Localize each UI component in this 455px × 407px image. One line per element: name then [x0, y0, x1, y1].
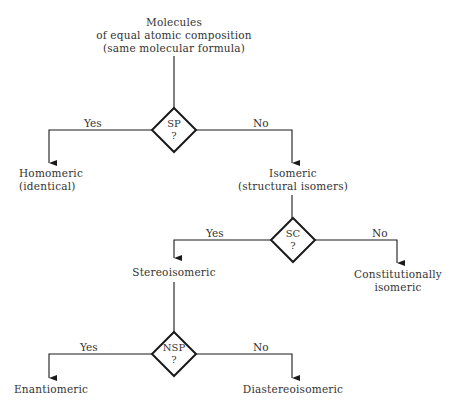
node-constitutionally-line2: isomeric: [347, 281, 449, 294]
edge-sp-yes: [49, 130, 152, 163]
edge-label-sp-no: No: [253, 117, 269, 129]
edge-label-sc-no: No: [372, 227, 388, 239]
edge-sc-no: [315, 240, 397, 263]
node-homomeric: Homomeric (identical): [19, 167, 83, 193]
node-constitutionally-isomeric: Constitutionally isomeric: [347, 268, 449, 294]
root-line2: of equal atomic composition: [74, 29, 274, 42]
edge-nsp-yes: [49, 354, 152, 378]
node-diastereoisomeric: Diastereoisomeric: [237, 383, 349, 396]
decision-sp: SP ?: [159, 118, 189, 142]
node-enantiomeric-line1: Enantiomeric: [14, 383, 88, 396]
decision-sc-label: SC: [278, 228, 308, 240]
edge-label-sc-yes: Yes: [206, 227, 224, 239]
decision-sc: SC ?: [278, 228, 308, 252]
node-homomeric-line2: (identical): [19, 180, 83, 193]
node-diastereoisomeric-line1: Diastereoisomeric: [237, 383, 349, 396]
node-isomeric: Isomeric (structural isomers): [232, 167, 354, 193]
root-node: Molecules of equal atomic composition (s…: [74, 16, 274, 55]
node-isomeric-line2: (structural isomers): [232, 180, 354, 193]
decision-nsp-label: NSP: [159, 342, 189, 354]
edge-label-sp-yes: Yes: [84, 117, 102, 129]
node-enantiomeric: Enantiomeric: [14, 383, 88, 396]
decision-sp-q: ?: [159, 130, 189, 142]
edge-nsp-no: [196, 354, 292, 378]
edge-label-nsp-yes: Yes: [80, 341, 98, 353]
edge-label-nsp-no: No: [253, 341, 269, 353]
decision-nsp-q: ?: [159, 354, 189, 366]
decision-sp-label: SP: [159, 118, 189, 130]
node-homomeric-line1: Homomeric: [19, 167, 83, 180]
node-constitutionally-line1: Constitutionally: [347, 268, 449, 281]
node-stereoisomeric: Stereoisomeric: [124, 266, 224, 279]
decision-nsp: NSP ?: [159, 342, 189, 366]
root-line3: (same molecular formula): [74, 42, 274, 55]
edge-sc-yes: [174, 240, 271, 258]
node-stereoisomeric-line1: Stereoisomeric: [124, 266, 224, 279]
root-line1: Molecules: [74, 16, 274, 29]
flowchart-connectors: [0, 0, 455, 407]
edge-sp-no: [196, 130, 292, 163]
decision-sc-q: ?: [278, 240, 308, 252]
node-isomeric-line1: Isomeric: [232, 167, 354, 180]
